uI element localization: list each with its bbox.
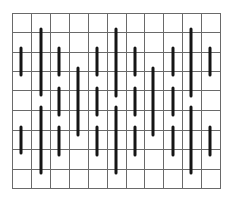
grid-figure [0, 0, 234, 203]
